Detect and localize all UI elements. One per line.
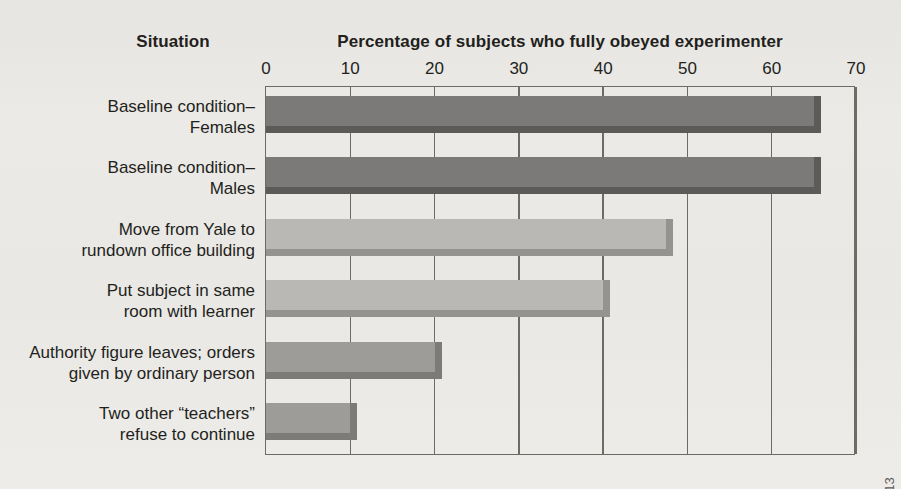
bar-face <box>266 219 666 249</box>
bar[interactable] <box>266 280 610 317</box>
category-label-line: room with learner <box>10 301 255 322</box>
category-label-line: Males <box>10 178 255 199</box>
bar-side-shade <box>814 157 821 194</box>
category-label-line: rundown office building <box>10 240 255 261</box>
copyright-notice: © Cengage Learning 2013 <box>882 477 897 489</box>
bar[interactable] <box>266 219 673 256</box>
bar-row <box>266 333 856 395</box>
category-label: Two other “teachers”refuse to continue <box>10 403 265 445</box>
bar-side-shade <box>603 280 610 317</box>
bar-face <box>266 157 814 187</box>
bar-bottom-shade <box>266 372 442 379</box>
category-label-line: Females <box>10 117 255 138</box>
category-label: Baseline condition–Females <box>10 96 265 138</box>
bar-bottom-shade <box>266 126 821 133</box>
situation-column-header: Situation <box>88 32 258 52</box>
category-label-line: refuse to continue <box>10 424 255 445</box>
bar-face <box>266 342 435 372</box>
plot-area: 010203040506070 <box>265 86 855 455</box>
category-label-line: Authority figure leaves; orders <box>10 342 255 363</box>
axis-title: Percentage of subjects who fully obeyed … <box>265 32 855 52</box>
bar-bottom-shade <box>266 310 610 317</box>
bar-bottom-shade <box>266 249 673 256</box>
bar-row <box>266 272 856 334</box>
x-tick-label-70: 70 <box>836 59 876 79</box>
bar-bottom-shade <box>266 433 357 440</box>
bar-face <box>266 403 350 433</box>
x-tick-label-0: 0 <box>246 59 286 79</box>
x-tick-label-10: 10 <box>330 59 370 79</box>
bar[interactable] <box>266 403 357 440</box>
x-tick-label-20: 20 <box>415 59 455 79</box>
bar-side-shade <box>814 96 821 133</box>
bar-bottom-shade <box>266 187 821 194</box>
x-tick-label-60: 60 <box>752 59 792 79</box>
chart-page: Situation Percentage of subjects who ful… <box>0 0 901 489</box>
category-label: Baseline condition–Males <box>10 157 265 199</box>
bar-row <box>266 395 856 457</box>
category-labels: Baseline condition–FemalesBaseline condi… <box>0 86 265 455</box>
x-tick-label-30: 30 <box>499 59 539 79</box>
bar-row <box>266 149 856 211</box>
category-label-line: Move from Yale to <box>10 219 255 240</box>
category-label-line: Put subject in same <box>10 280 255 301</box>
bar-face <box>266 96 814 126</box>
category-label-line: Two other “teachers” <box>10 403 255 424</box>
bar-side-shade <box>435 342 442 379</box>
bar-side-shade <box>666 219 673 256</box>
category-label-line: Baseline condition– <box>10 157 255 178</box>
bar[interactable] <box>266 342 442 379</box>
x-tick-label-40: 40 <box>583 59 623 79</box>
bar-side-shade <box>350 403 357 440</box>
category-label-line: given by ordinary person <box>10 363 255 384</box>
bar[interactable] <box>266 157 821 194</box>
category-label: Move from Yale torundown office building <box>10 219 265 261</box>
category-label: Put subject in sameroom with learner <box>10 280 265 322</box>
bar-row <box>266 87 856 149</box>
bar[interactable] <box>266 96 821 133</box>
category-label-line: Baseline condition– <box>10 96 255 117</box>
bar-row <box>266 210 856 272</box>
bar-face <box>266 280 603 310</box>
x-tick-label-50: 50 <box>667 59 707 79</box>
category-label: Authority figure leaves; ordersgiven by … <box>10 342 265 384</box>
